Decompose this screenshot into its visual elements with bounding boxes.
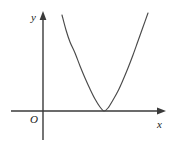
math-figure-parabola: y x O — [0, 0, 176, 148]
x-axis-label: x — [156, 118, 162, 130]
figure-background — [0, 0, 176, 148]
coordinate-plane-svg: y x O — [0, 0, 176, 148]
origin-label: O — [30, 113, 38, 125]
y-axis-label: y — [30, 11, 36, 23]
